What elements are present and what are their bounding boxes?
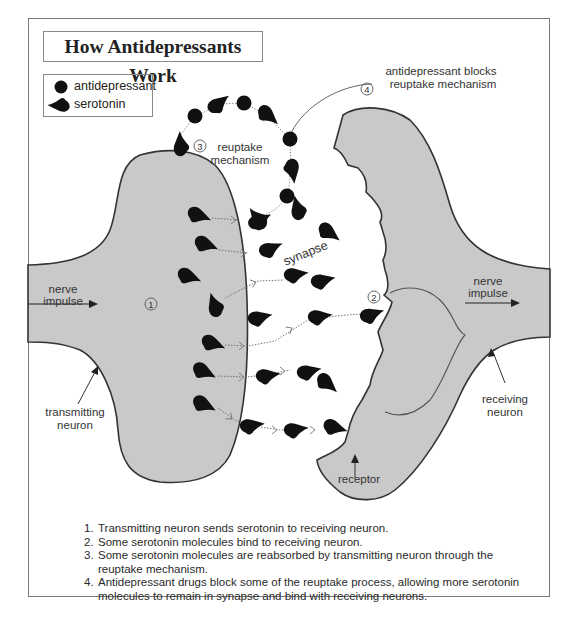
list-item: 1.Transmitting neuron sends serotonin to… bbox=[84, 522, 524, 536]
trajectory-arrowhead bbox=[310, 426, 315, 434]
serotonin-synapse bbox=[309, 270, 337, 291]
label-nerve-impulse-left-2: impulse bbox=[43, 295, 83, 307]
list-number: 1. bbox=[84, 522, 94, 536]
diagram-canvas: nerve impulse nerve impulse transmitting… bbox=[0, 0, 577, 618]
step-marker-3: 3 bbox=[194, 140, 206, 152]
legend: antidepressant serotonin bbox=[43, 74, 153, 117]
trajectory-arrowhead bbox=[272, 426, 277, 434]
svg-text:2: 2 bbox=[371, 292, 376, 303]
legend-item-serotonin: serotonin bbox=[44, 96, 154, 114]
trajectory-arrowhead bbox=[286, 325, 294, 334]
label-nerve-impulse-right-1: nerve bbox=[474, 275, 503, 287]
antidepressant-molecule bbox=[188, 109, 203, 124]
svg-text:4: 4 bbox=[364, 84, 369, 95]
list-text: Some serotonin molecules are reabsorbed … bbox=[98, 549, 493, 575]
list-text: Transmitting neuron sends serotonin to r… bbox=[98, 522, 388, 534]
antidepressant-circle-icon bbox=[44, 78, 72, 96]
antidepressant-molecule bbox=[283, 132, 298, 147]
serotonin-synapse bbox=[283, 420, 310, 440]
serotonin-synapse bbox=[239, 416, 266, 436]
serotonin-reuptake bbox=[254, 102, 283, 130]
antidepressant-molecule bbox=[237, 96, 252, 111]
label-reuptake-mechanism-2: mechanism bbox=[211, 154, 270, 166]
svg-text:3: 3 bbox=[197, 141, 202, 152]
serotonin-synapse bbox=[255, 366, 282, 386]
serotonin-synapse bbox=[246, 307, 274, 328]
diagram-title: How Antidepressants Work bbox=[43, 31, 263, 62]
list-number: 2. bbox=[84, 536, 94, 550]
list-item: 3.Some serotonin molecules are reabsorbe… bbox=[84, 549, 524, 576]
step-marker-4: 4 bbox=[361, 83, 373, 95]
transmitting-neuron-pointer bbox=[78, 366, 98, 404]
serotonin-synapse bbox=[246, 208, 275, 234]
list-text: Some serotonin molecules bind to receivi… bbox=[98, 536, 363, 548]
explanation-list: 1.Transmitting neuron sends serotonin to… bbox=[84, 522, 524, 603]
serotonin-shape-icon bbox=[44, 96, 72, 114]
label-reuptake-mechanism-1: reuptake bbox=[218, 141, 263, 153]
legend-label: serotonin bbox=[74, 97, 125, 111]
list-item: 4.Antidepressant drugs block some of the… bbox=[84, 576, 524, 603]
label-antidepressant-blocks-1: antidepressant blocks bbox=[385, 65, 496, 77]
trajectory-arrowhead bbox=[250, 278, 257, 287]
label-transmitting-neuron-2: neuron bbox=[57, 419, 93, 431]
list-item: 2.Some serotonin molecules bind to recei… bbox=[84, 536, 524, 550]
label-nerve-impulse-right-2: impulse bbox=[468, 287, 508, 299]
list-text: Antidepressant drugs block some of the r… bbox=[98, 576, 519, 602]
serotonin-reuptake bbox=[282, 158, 302, 185]
svg-text:1: 1 bbox=[148, 299, 153, 310]
label-receptor: receptor bbox=[338, 473, 380, 485]
list-number: 4. bbox=[84, 576, 94, 590]
label-synapse: synapse bbox=[281, 238, 329, 268]
label-receiving-neuron-1: receiving bbox=[482, 393, 528, 405]
legend-label: antidepressant bbox=[74, 79, 156, 93]
antidepressant-molecule bbox=[280, 189, 295, 204]
label-receiving-neuron-2: neuron bbox=[487, 406, 523, 418]
list-number: 3. bbox=[84, 549, 94, 563]
label-transmitting-neuron-1: transmitting bbox=[45, 406, 104, 418]
serotonin-synapse bbox=[313, 370, 342, 398]
label-nerve-impulse-left-1: nerve bbox=[49, 283, 78, 295]
label-antidepressant-blocks-2: reuptake mechanism bbox=[390, 78, 497, 90]
step-marker-2: 2 bbox=[368, 291, 380, 303]
legend-item-antidepressant: antidepressant bbox=[44, 78, 154, 96]
serotonin-synapse bbox=[321, 418, 349, 439]
receiving-neuron-pointer bbox=[488, 348, 505, 383]
